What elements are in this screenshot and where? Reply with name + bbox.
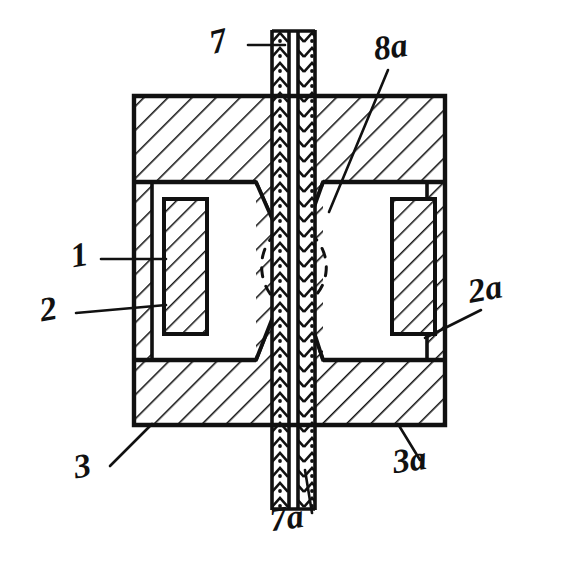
left-coil: [164, 199, 207, 334]
patent-figure: 78a122a33a7a: [0, 0, 570, 588]
right-coil-fill: [392, 199, 435, 334]
figure-canvas: 78a122a33a7a: [0, 0, 570, 588]
right-coil: [392, 199, 435, 334]
shaft-right-hatch: [298, 30, 315, 510]
label-2a: 2a: [464, 268, 505, 311]
label-8a: 8a: [371, 26, 410, 67]
label-3a: 3a: [389, 439, 429, 481]
left-coil-fill: [164, 199, 207, 334]
armature-shaft: [272, 30, 315, 510]
label-7a: 7a: [267, 497, 306, 538]
shaft-left-hatch: [272, 30, 289, 510]
